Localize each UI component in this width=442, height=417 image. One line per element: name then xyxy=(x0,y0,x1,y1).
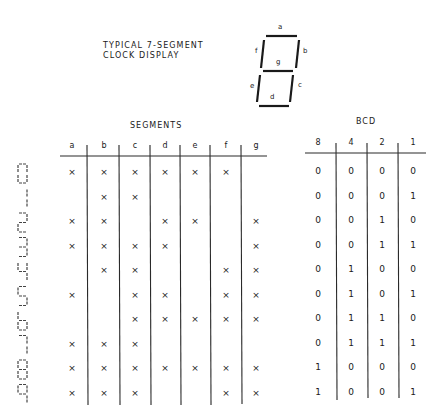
segment-cell: × xyxy=(125,290,145,300)
bcd-column-4: 4 xyxy=(341,138,361,147)
segment-cell: × xyxy=(94,363,114,373)
bcd-cell: 0 xyxy=(403,215,423,225)
segment-cell: × xyxy=(185,363,205,373)
digit-glyphs xyxy=(18,164,27,403)
segment-cell: × xyxy=(94,388,114,398)
bcd-column-1: 1 xyxy=(403,138,423,147)
segment-cell: × xyxy=(216,265,236,275)
bcd-cell: 0 xyxy=(308,215,328,225)
segment-cell: × xyxy=(216,167,236,177)
segment-cell: × xyxy=(62,290,82,300)
segment-cell: × xyxy=(246,216,266,226)
bcd-cell: 1 xyxy=(372,313,392,323)
segment-cell: × xyxy=(155,216,175,226)
bcd-cell: 0 xyxy=(308,240,328,250)
segment-cell: × xyxy=(155,314,175,324)
segment-cell: × xyxy=(94,265,114,275)
bcd-cell: 1 xyxy=(372,240,392,250)
segment-cell: × xyxy=(216,388,236,398)
bcd-column-8: 8 xyxy=(308,138,328,147)
segments-column-c: c xyxy=(125,141,145,150)
bcd-cell: 0 xyxy=(372,264,392,274)
segment-cell: × xyxy=(125,192,145,202)
segment-cell: × xyxy=(125,167,145,177)
bcd-cell: 1 xyxy=(403,387,423,397)
segment-cell: × xyxy=(185,167,205,177)
segment-cell: × xyxy=(125,241,145,251)
segment-cell: × xyxy=(62,167,82,177)
segment-cell: × xyxy=(216,314,236,324)
segments-column-d: d xyxy=(155,141,175,150)
bcd-cell: 0 xyxy=(372,387,392,397)
bcd-cell: 1 xyxy=(341,338,361,348)
segment-diagram-icon xyxy=(257,36,299,106)
line-art xyxy=(0,0,442,417)
bcd-cell: 1 xyxy=(341,264,361,274)
segment-cell: × xyxy=(94,167,114,177)
bcd-cell: 0 xyxy=(403,264,423,274)
segments-column-e: e xyxy=(185,141,205,150)
bcd-cell: 0 xyxy=(308,166,328,176)
segment-cell: × xyxy=(94,216,114,226)
segment-cell: × xyxy=(125,265,145,275)
segment-label-e: e xyxy=(250,82,254,90)
bcd-cell: 0 xyxy=(308,289,328,299)
bcd-cell: 1 xyxy=(308,387,328,397)
bcd-cell: 1 xyxy=(341,289,361,299)
segment-cell: × xyxy=(246,314,266,324)
segment-cell: × xyxy=(94,192,114,202)
bcd-cell: 1 xyxy=(403,191,423,201)
bcd-cell: 1 xyxy=(372,338,392,348)
segment-cell: × xyxy=(155,241,175,251)
bcd-cell: 0 xyxy=(372,289,392,299)
bcd-cell: 0 xyxy=(341,191,361,201)
bcd-cell: 0 xyxy=(372,166,392,176)
segment-cell: × xyxy=(246,363,266,373)
bcd-cell: 0 xyxy=(308,264,328,274)
bcd-cell: 0 xyxy=(308,191,328,201)
segment-cell: × xyxy=(216,290,236,300)
segment-label-f: f xyxy=(255,47,257,55)
segment-cell: × xyxy=(155,363,175,373)
segment-cell: × xyxy=(62,216,82,226)
segment-label-c: c xyxy=(298,81,302,89)
bcd-cell: 0 xyxy=(341,166,361,176)
segment-cell: × xyxy=(62,339,82,349)
bcd-cell: 1 xyxy=(403,240,423,250)
segment-cell: × xyxy=(125,363,145,373)
segment-label-b: b xyxy=(303,47,307,55)
segment-cell: × xyxy=(216,363,236,373)
bcd-cell: 0 xyxy=(341,215,361,225)
bcd-cell: 1 xyxy=(372,215,392,225)
bcd-column-2: 2 xyxy=(372,138,392,147)
segment-cell: × xyxy=(246,290,266,300)
bcd-cell: 0 xyxy=(403,166,423,176)
bcd-cell: 0 xyxy=(403,362,423,372)
segment-cell: × xyxy=(125,314,145,324)
segment-cell: × xyxy=(246,265,266,275)
segment-cell: × xyxy=(185,314,205,324)
segment-cell: × xyxy=(94,339,114,349)
bcd-cell: 1 xyxy=(403,289,423,299)
bcd-cell: 0 xyxy=(341,362,361,372)
bcd-cell: 1 xyxy=(341,313,361,323)
bcd-cell: 0 xyxy=(341,387,361,397)
bcd-cell: 1 xyxy=(308,362,328,372)
segments-column-f: f xyxy=(216,141,236,150)
segment-label-g: g xyxy=(276,58,280,66)
bcd-cell: 0 xyxy=(372,362,392,372)
segment-label-a: a xyxy=(278,23,282,31)
segment-cell: × xyxy=(185,216,205,226)
segment-cell: × xyxy=(62,241,82,251)
segment-cell: × xyxy=(62,388,82,398)
segments-column-b: b xyxy=(94,141,114,150)
segment-cell: × xyxy=(155,290,175,300)
segment-cell: × xyxy=(125,339,145,349)
bcd-cell: 0 xyxy=(308,313,328,323)
segment-cell: × xyxy=(94,241,114,251)
segments-column-g: g xyxy=(246,141,266,150)
bcd-cell: 0 xyxy=(308,338,328,348)
bcd-cell: 0 xyxy=(341,240,361,250)
segment-label-d: d xyxy=(270,93,274,101)
segment-cell: × xyxy=(246,241,266,251)
